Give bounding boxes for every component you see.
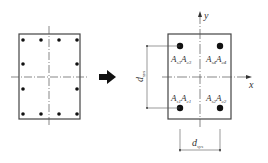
section-transformation-diagram: y x As3Ac3 As4Ac4 As1Ac1 As2Ac2 dsys [0, 0, 268, 163]
y-axis-label: y [203, 10, 209, 21]
quadrant-label-bottom-left: As1Ac1 [170, 93, 191, 104]
x-axis-label: x [248, 79, 254, 90]
vertical-dimension-label: dsys [134, 71, 146, 82]
horizontal-dimension-label: dsys [192, 137, 203, 149]
arrow-right-icon [99, 70, 116, 84]
left-section-outline [19, 34, 80, 119]
horizontal-dimension: dsys [179, 129, 221, 152]
left-section [11, 26, 88, 127]
y-axis-arrow-icon [198, 11, 202, 17]
right-section: y x As3Ac3 As4Ac4 As1Ac1 As2Ac2 dsys [134, 10, 254, 152]
quadrant-label-top-right: As4Ac4 [205, 54, 227, 65]
quadrant-label-top-left: As3Ac3 [170, 54, 192, 65]
quadrant-label-bottom-right: As2Ac2 [205, 93, 227, 104]
